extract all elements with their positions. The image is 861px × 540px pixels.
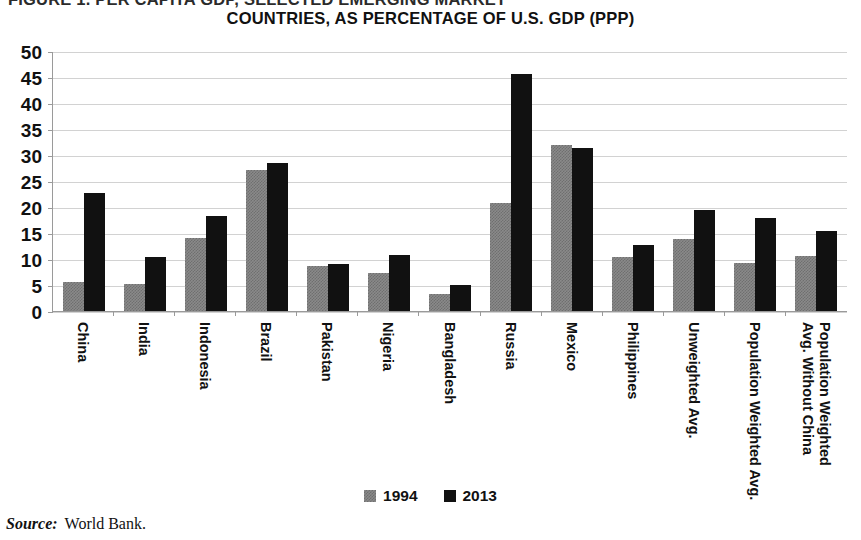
bar-group (419, 52, 480, 311)
x-axis-category-label: Population Weighted Avg. (747, 322, 763, 500)
chart-title: FIGURE 1. PER CAPITA GDP, SELECTED EMERG… (0, 0, 861, 28)
x-axis-category: Pakistan (297, 318, 358, 503)
x-axis-category-label: Nigeria (380, 322, 396, 371)
x-axis-category-label: Bangladesh (442, 322, 458, 404)
x-axis-category: Brazil (235, 318, 296, 503)
y-axis: 50454035302520151050 (0, 52, 46, 314)
bar-group (725, 52, 786, 311)
x-axis-tick (541, 311, 542, 316)
legend-swatch (444, 490, 456, 502)
bar-2013 (267, 163, 288, 311)
bar-group (236, 52, 297, 311)
x-axis-tick (235, 311, 236, 316)
y-axis-tick-label: 20 (21, 199, 42, 218)
plot-area (52, 52, 847, 312)
y-axis-tick-label: 10 (21, 251, 42, 270)
x-axis-category: Population Weighted Avg. Without China (786, 318, 847, 503)
bar-2013 (145, 257, 166, 311)
chart-legend: 19942013 (0, 487, 861, 505)
y-axis-tick-label: 40 (21, 95, 42, 114)
x-axis-category: Bangladesh (419, 318, 480, 503)
chart-title-line-2: COUNTRIES, AS PERCENTAGE OF U.S. GDP (PP… (0, 9, 861, 28)
x-axis-category-label: Philippines (625, 322, 641, 399)
y-axis-tick-label: 25 (21, 173, 42, 192)
y-axis-tick-label: 50 (21, 43, 42, 62)
x-axis-tick (724, 311, 725, 316)
gridline (53, 312, 847, 313)
bar-1994 (734, 263, 755, 311)
legend-label: 2013 (463, 487, 497, 505)
bar-1994 (185, 238, 206, 311)
bar-1994 (795, 256, 816, 311)
bar-2013 (389, 255, 410, 311)
x-axis-category-label: Pakistan (319, 322, 335, 382)
x-axis-category: India (113, 318, 174, 503)
x-axis-tick (296, 311, 297, 316)
bar-2013 (572, 148, 593, 311)
bar-group (542, 52, 603, 311)
x-axis-tick (418, 311, 419, 316)
x-axis-category: Russia (480, 318, 541, 503)
bar-group (786, 52, 847, 311)
bar-2013 (633, 245, 654, 311)
y-axis-tick-label: 45 (21, 69, 42, 88)
bar-2013 (694, 210, 715, 311)
bar-group (358, 52, 419, 311)
legend-label: 1994 (383, 487, 417, 505)
x-axis-category-label: China (75, 322, 91, 362)
bar-group (664, 52, 725, 311)
bar-1994 (63, 282, 84, 311)
x-axis-category: Mexico (541, 318, 602, 503)
x-axis-category-label: Brazil (258, 322, 274, 362)
bar-1994 (307, 266, 328, 311)
x-axis-category-label: Indonesia (197, 322, 213, 390)
bar-group (175, 52, 236, 311)
source-label: Source: (6, 515, 58, 532)
x-axis-tick (113, 311, 114, 316)
bar-2013 (206, 216, 227, 311)
bar-2013 (328, 264, 349, 311)
bar-groups (53, 52, 847, 311)
bar-group (114, 52, 175, 311)
legend-item: 2013 (444, 487, 497, 505)
x-axis-category: Population Weighted Avg. (725, 318, 786, 503)
y-axis-tick-label: 15 (21, 225, 42, 244)
x-axis-category-label: Russia (503, 322, 519, 370)
source-value: World Bank. (65, 515, 146, 532)
bar-1994 (612, 257, 633, 311)
x-axis-category-label: Unweighted Avg. (686, 322, 702, 439)
bar-1994 (673, 239, 694, 311)
bar-group (297, 52, 358, 311)
bar-1994 (429, 294, 450, 311)
x-axis-category-label: Mexico (564, 322, 580, 371)
x-axis-category: Nigeria (358, 318, 419, 503)
y-axis-tick-label: 30 (21, 147, 42, 166)
bar-1994 (124, 284, 145, 311)
x-axis-category: Indonesia (174, 318, 235, 503)
x-axis-category: China (52, 318, 113, 503)
bar-group (603, 52, 664, 311)
x-axis-tick (663, 311, 664, 316)
figure-container: FIGURE 1. PER CAPITA GDP, SELECTED EMERG… (0, 0, 861, 540)
chart-title-line-1: FIGURE 1. PER CAPITA GDP, SELECTED EMERG… (0, 0, 861, 9)
x-axis-category: Unweighted Avg. (664, 318, 725, 503)
x-axis-category-label: India (136, 322, 152, 356)
bar-group (53, 52, 114, 311)
x-axis-tick (785, 311, 786, 316)
y-axis-tick (48, 312, 53, 313)
y-axis-tick-label: 35 (21, 121, 42, 140)
x-axis-tick (174, 311, 175, 316)
legend-item: 1994 (364, 487, 417, 505)
bar-2013 (450, 285, 471, 311)
x-axis-category-label: Population Weighted Avg. Without China (799, 322, 833, 497)
x-axis-tick (602, 311, 603, 316)
x-axis-tick (357, 311, 358, 316)
bar-2013 (511, 74, 532, 311)
y-axis-tick-label: 5 (31, 277, 42, 296)
y-axis-tick-label: 0 (31, 303, 42, 322)
x-axis-tick (480, 311, 481, 316)
bar-2013 (755, 218, 776, 311)
bar-2013 (84, 193, 105, 311)
bar-1994 (246, 170, 267, 311)
bar-2013 (816, 231, 837, 311)
